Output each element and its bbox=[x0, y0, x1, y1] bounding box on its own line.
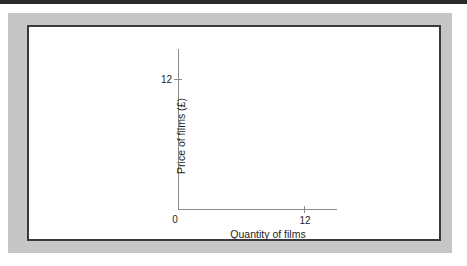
y-axis-tick-12 bbox=[174, 79, 182, 80]
y-axis-title: Price of films (£) bbox=[175, 81, 187, 191]
x-axis-title: Quantity of films bbox=[180, 228, 356, 240]
x-axis-line bbox=[178, 209, 337, 210]
x-axis-tick-12 bbox=[304, 206, 305, 213]
plot-canvas: 12 12 0 Quantity of films Price of films… bbox=[29, 27, 439, 239]
axis-origin-label: 0 bbox=[169, 214, 181, 225]
y-axis-tick-label-12: 12 bbox=[155, 74, 172, 85]
figure-keyline-border: 12 12 0 Quantity of films Price of films… bbox=[27, 25, 441, 241]
figure-frame: 12 12 0 Quantity of films Price of films… bbox=[8, 13, 452, 253]
x-axis-tick-label-12: 12 bbox=[294, 215, 316, 226]
top-divider-rule bbox=[0, 0, 467, 4]
